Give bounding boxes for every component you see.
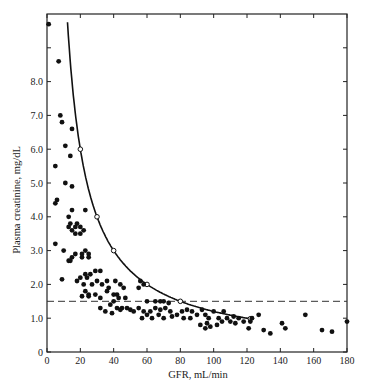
data-point	[161, 316, 166, 321]
data-point	[118, 307, 123, 312]
data-point	[205, 321, 210, 326]
y-tick-label: 2.0	[31, 279, 44, 290]
data-point	[78, 231, 83, 236]
data-point	[233, 321, 238, 326]
y-tick-label: 1.0	[31, 313, 44, 324]
data-point	[98, 296, 103, 301]
data-point	[121, 285, 126, 290]
curve-open-circle-marker	[78, 147, 83, 152]
data-point	[161, 299, 166, 304]
data-point	[105, 289, 110, 294]
data-point	[70, 184, 75, 189]
data-point	[63, 143, 68, 148]
data-point	[93, 292, 98, 297]
x-tick-label: 180	[340, 355, 355, 366]
data-point	[181, 316, 186, 321]
data-point	[61, 248, 66, 253]
data-point	[136, 285, 141, 290]
data-point	[166, 301, 171, 306]
data-point	[145, 312, 150, 317]
data-point	[70, 208, 75, 213]
data-point	[108, 302, 113, 307]
y-tick-label: 3.0	[31, 245, 44, 256]
data-point	[53, 241, 58, 246]
data-point	[81, 282, 86, 287]
data-point	[116, 296, 121, 301]
data-point	[103, 309, 108, 314]
data-point	[131, 309, 136, 314]
x-tick-label: 120	[240, 355, 255, 366]
curve-open-circle-marker	[178, 299, 183, 304]
x-axis-title: GFR, mL/min	[168, 369, 228, 380]
data-point	[75, 279, 80, 284]
data-point	[68, 258, 73, 263]
creatinine-vs-gfr-chart: 02040608010012014016018001.02.03.04.05.0…	[0, 0, 369, 387]
data-point	[236, 316, 241, 321]
data-point	[211, 309, 216, 314]
y-tick-label: 6.0	[31, 144, 44, 155]
data-point	[68, 154, 73, 159]
y-tick-label: 5.0	[31, 178, 44, 189]
curve-open-circle-marker	[95, 215, 100, 220]
x-tick-label: 20	[75, 355, 85, 366]
y-tick-label: 4.0	[31, 211, 44, 222]
data-point	[168, 309, 173, 314]
data-point	[98, 306, 103, 311]
data-point	[215, 323, 220, 328]
x-tick-label: 100	[206, 355, 221, 366]
y-axis-title: Plasma creatinine, mg/dL	[11, 146, 22, 254]
data-point	[280, 321, 285, 326]
data-point	[261, 328, 266, 333]
data-point	[123, 296, 128, 301]
data-point	[98, 268, 103, 273]
data-point	[58, 113, 63, 118]
data-point	[66, 214, 71, 219]
data-point	[113, 279, 118, 284]
data-point	[145, 299, 150, 304]
data-point	[53, 164, 58, 169]
data-point	[86, 294, 91, 299]
x-tick-label: 140	[273, 355, 288, 366]
data-point	[83, 208, 88, 213]
data-point	[156, 312, 161, 317]
x-tick-label: 60	[142, 355, 152, 366]
data-point	[73, 231, 78, 236]
data-point	[93, 268, 98, 273]
data-point	[170, 314, 175, 319]
data-point	[46, 22, 51, 27]
data-point	[163, 306, 168, 311]
scatter-points	[46, 22, 349, 336]
theoretical-curve	[68, 22, 253, 321]
data-point	[283, 326, 288, 331]
data-point	[330, 329, 335, 334]
data-point	[206, 316, 211, 321]
x-tick-label: 80	[175, 355, 185, 366]
data-point	[110, 311, 115, 316]
data-point	[256, 312, 261, 317]
data-point	[80, 294, 85, 299]
data-point	[175, 312, 180, 317]
data-point	[345, 319, 350, 324]
data-point	[220, 319, 225, 324]
data-point	[80, 255, 85, 260]
data-point	[140, 316, 145, 321]
y-tick-label: 0	[38, 347, 43, 358]
data-point	[200, 307, 205, 312]
data-point	[53, 201, 58, 206]
data-point	[105, 279, 110, 284]
data-point	[86, 255, 91, 260]
x-tick-label: 40	[109, 355, 119, 366]
data-point	[158, 307, 163, 312]
data-point	[303, 312, 308, 317]
data-point	[320, 328, 325, 333]
data-point	[195, 312, 200, 317]
x-tick-label: 160	[306, 355, 321, 366]
data-point	[100, 282, 105, 287]
data-point	[180, 309, 185, 314]
data-point	[90, 282, 95, 287]
data-point	[188, 316, 193, 321]
data-point	[95, 279, 100, 284]
data-point	[153, 306, 158, 311]
data-point	[185, 307, 190, 312]
data-point	[136, 306, 141, 311]
